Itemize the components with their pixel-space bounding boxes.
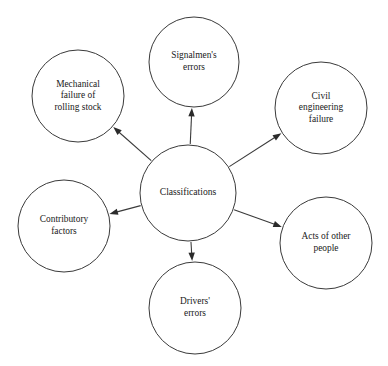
connector-line-to-contributory-factors	[116, 206, 140, 213]
connector-to-signalmens-errors	[188, 108, 194, 144]
nodes-layer: Signalmen'serrorsCivilengineeringfailure…	[18, 17, 372, 354]
arrow-head-icon-to-contributory-factors	[109, 209, 118, 215]
connector-to-mechanical-failure-of-rolling-stock	[113, 127, 151, 161]
arrow-head-icon-to-civil-engineering-failure	[273, 133, 282, 140]
connector-to-contributory-factors	[109, 206, 140, 215]
node-label-mechanical-failure-of-rolling-stock: failure of	[61, 90, 96, 100]
classifications-diagram: Signalmen'serrorsCivilengineeringfailure…	[0, 0, 388, 366]
connector-line-to-mechanical-failure-of-rolling-stock	[119, 132, 152, 161]
node-label-civil-engineering-failure: failure	[309, 114, 333, 124]
connector-line-to-signalmens-errors	[190, 115, 191, 144]
node-label-contributory-factors: factors	[51, 226, 77, 236]
node-label-mechanical-failure-of-rolling-stock: Mechanical	[56, 79, 100, 89]
connector-to-acts-of-other-people	[234, 210, 282, 227]
node-label-civil-engineering-failure: Civil	[312, 91, 331, 101]
connector-to-civil-engineering-failure	[229, 133, 281, 166]
node-label-signalmens-errors: errors	[183, 62, 205, 72]
arrow-head-icon-to-signalmens-errors	[188, 108, 194, 117]
node-drivers-errors[interactable]: Drivers'errors	[149, 262, 241, 354]
node-mechanical-failure-of-rolling-stock[interactable]: Mechanicalfailure ofrolling stock	[32, 50, 124, 142]
connector-line-to-drivers-errors	[191, 242, 192, 254]
node-label-civil-engineering-failure: engineering	[299, 102, 344, 112]
node-label-acts-of-other-people: people	[314, 243, 339, 253]
connector-to-drivers-errors	[188, 242, 194, 261]
node-label-mechanical-failure-of-rolling-stock: rolling stock	[54, 102, 101, 112]
node-acts-of-other-people[interactable]: Acts of otherpeople	[280, 197, 372, 289]
node-label-classifications: Classifications	[160, 186, 217, 197]
connector-line-to-civil-engineering-failure	[229, 137, 275, 167]
node-label-drivers-errors: Drivers'	[180, 296, 210, 306]
node-label-acts-of-other-people: Acts of other	[302, 231, 352, 241]
node-civil-engineering-failure[interactable]: Civilengineeringfailure	[275, 62, 367, 154]
diagram-canvas: Signalmen'serrorsCivilengineeringfailure…	[0, 0, 388, 366]
node-classifications[interactable]: Classifications	[140, 145, 236, 241]
node-contributory-factors[interactable]: Contributoryfactors	[18, 180, 110, 272]
arrow-head-icon-to-acts-of-other-people	[273, 221, 282, 227]
node-signalmens-errors[interactable]: Signalmen'serrors	[149, 17, 239, 107]
connector-line-to-acts-of-other-people	[234, 210, 275, 225]
node-label-contributory-factors: Contributory	[40, 214, 89, 224]
node-label-signalmens-errors: Signalmen's	[171, 50, 217, 60]
node-label-drivers-errors: errors	[184, 308, 206, 318]
arrow-head-icon-to-drivers-errors	[188, 252, 194, 261]
